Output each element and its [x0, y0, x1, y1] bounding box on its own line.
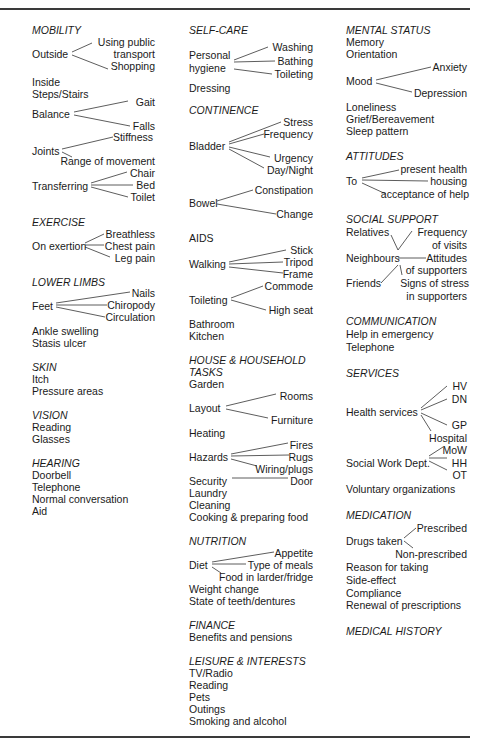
item-on-exertion: On exertion [32, 240, 86, 252]
item-bed: Bed [136, 179, 155, 191]
item-memory: Memory [346, 36, 384, 48]
item-drugs-taken: Drugs taken [346, 535, 403, 547]
item-to: To [346, 175, 357, 187]
item-hospital: Hospital [429, 432, 467, 444]
item-bathroom: Bathroom [189, 318, 235, 330]
heading-exercise: EXERCISE [32, 216, 85, 228]
item-smoking-alcohol: Smoking and alcohol [189, 715, 286, 727]
item-dressing: Dressing [189, 82, 230, 94]
item-washing: Washing [273, 41, 313, 53]
item-chair: Chair [130, 167, 155, 179]
item-orientation: Orientation [346, 48, 397, 60]
item-health-services: Health services [346, 406, 418, 418]
item-leg-pain: Leg pain [115, 252, 155, 264]
item-frequency-visits: Frequency [417, 226, 467, 238]
heading-social-support: SOCIAL SUPPORT [346, 213, 438, 225]
heading-self-care: SELF-CARE [189, 24, 248, 36]
item-mow: MoW [443, 444, 468, 456]
item-high-seat: High seat [269, 304, 313, 316]
item-non-prescribed: Non-prescribed [395, 548, 467, 560]
item-aid: Aid [32, 505, 47, 517]
item-dn: DN [452, 393, 467, 405]
item-tv-radio: TV/Radio [189, 667, 233, 679]
item-neighbours: Neighbours [346, 252, 400, 264]
item-itch: Itch [32, 373, 49, 385]
item-chest-pain: Chest pain [105, 240, 155, 252]
item-doorbell: Doorbell [32, 469, 71, 481]
item-glasses: Glasses [32, 433, 70, 445]
item-mood: Mood [346, 75, 372, 87]
item-hygiene: hygiene [189, 62, 226, 74]
heading-medical-history: MEDICAL HISTORY [346, 625, 442, 637]
item-compliance: Compliance [346, 587, 401, 599]
item-gait: Gait [136, 96, 155, 108]
item-stress: Stress [283, 116, 313, 128]
item-furniture: Furniture [271, 414, 313, 426]
item-walking: Walking [189, 258, 226, 270]
item-ot: OT [452, 469, 467, 481]
item-prescribed: Prescribed [417, 522, 467, 534]
item-food-in-larder: Food in larder/fridge [219, 571, 313, 583]
item-commode: Commode [265, 280, 313, 292]
heading-lower-limbs: LOWER LIMBS [32, 276, 105, 288]
item-present-health: present health [400, 163, 467, 175]
item-day-night: Day/Night [267, 164, 313, 176]
item-voluntary-orgs: Voluntary organizations [346, 483, 455, 495]
item-telephone-comm: Telephone [346, 341, 394, 353]
item-door: Door [290, 475, 313, 487]
item-of-visits: of visits [432, 239, 467, 251]
item-toilet: Toilet [130, 191, 155, 203]
item-appetite: Appetite [274, 547, 313, 559]
item-transport: transport [114, 48, 155, 60]
item-toileting: Toileting [274, 68, 313, 80]
item-balance: Balance [32, 108, 70, 120]
item-feet: Feet [32, 300, 53, 312]
item-pets: Pets [189, 691, 210, 703]
heading-finance: FINANCE [189, 619, 235, 631]
item-sleep-pattern: Sleep pattern [346, 125, 408, 137]
item-breathless: Breathless [105, 228, 155, 240]
heading-vision: VISION [32, 409, 68, 421]
heading-aids: AIDS [189, 232, 214, 244]
heading-skin: SKIN [32, 361, 57, 373]
item-relatives: Relatives [346, 226, 389, 238]
item-toileting-aid: Toileting [189, 294, 228, 306]
item-weight-change: Weight change [189, 583, 259, 595]
heading-mental-status: MENTAL STATUS [346, 24, 430, 36]
heading-medication: MEDICATION [346, 509, 411, 521]
item-laundry: Laundry [189, 487, 227, 499]
heading-hearing: HEARING [32, 457, 80, 469]
item-renewal-prescriptions: Renewal of prescriptions [346, 599, 461, 611]
item-shopping: Shopping [111, 60, 155, 72]
item-hh: HH [452, 457, 467, 469]
item-diet: Diet [189, 559, 208, 571]
item-bowel: Bowel [189, 197, 218, 209]
item-bathing: Bathing [277, 55, 313, 67]
item-gp: GP [452, 419, 467, 431]
item-in-supporters: in supporters [406, 290, 467, 302]
item-pressure-areas: Pressure areas [32, 385, 103, 397]
item-acceptance-of-help: acceptance of help [381, 188, 469, 200]
item-stick: Stick [290, 244, 313, 256]
item-urgency: Urgency [274, 152, 313, 164]
item-personal: Personal [189, 49, 230, 61]
item-help-in-emergency: Help in emergency [346, 328, 434, 340]
item-ankle-swelling: Ankle swelling [32, 325, 99, 337]
item-outside: Outside [32, 48, 68, 60]
item-tripod: Tripod [284, 256, 313, 268]
item-range-of-movement: Range of movement [60, 155, 155, 167]
item-reading-leisure: Reading [189, 679, 228, 691]
item-fires: Fires [290, 439, 313, 451]
heading-services: SERVICES [346, 367, 399, 379]
item-frame: Frame [283, 268, 313, 280]
item-attitudes-supporters: Attitudes [426, 252, 467, 264]
item-of-supporters: of supporters [406, 264, 467, 276]
item-change: Change [276, 208, 313, 220]
heading-leisure: LEISURE & INTERESTS [189, 655, 306, 667]
item-constipation: Constipation [255, 184, 313, 196]
item-rooms: Rooms [280, 390, 313, 402]
item-benefits-pensions: Benefits and pensions [189, 631, 292, 643]
item-reason-for-taking: Reason for taking [346, 561, 428, 573]
item-reading: Reading [32, 421, 71, 433]
item-nails: Nails [132, 287, 155, 299]
